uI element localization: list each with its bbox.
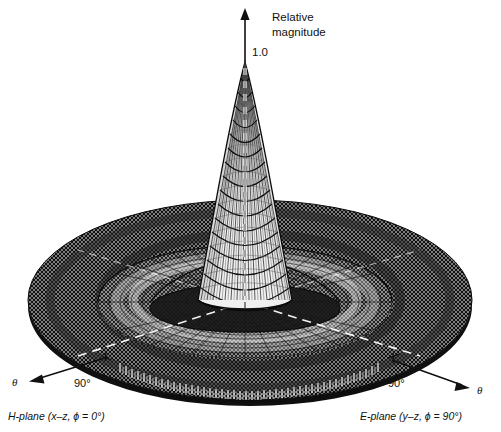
peak-value-label: 1.0 <box>252 46 268 58</box>
h-plane-caption: H-plane (x–z, ϕ = 0°) <box>8 410 105 422</box>
e-plane-caption: E-plane (y–z, ϕ = 90°) <box>360 410 462 422</box>
right-angle-label: 90° <box>388 377 405 389</box>
z-axis-label-line1: Relative <box>272 11 314 23</box>
z-axis-label-line2: magnitude <box>272 26 326 38</box>
pattern-svg: Relative magnitude 1.0 90° 90° θ θ H-pla… <box>0 0 501 432</box>
theta-symbol-right: θ <box>477 384 483 396</box>
left-angle-label: 90° <box>74 377 91 389</box>
theta-symbol-left: θ <box>12 376 18 388</box>
radiation-pattern-figure: Relative magnitude 1.0 90° 90° θ θ H-pla… <box>0 0 501 432</box>
